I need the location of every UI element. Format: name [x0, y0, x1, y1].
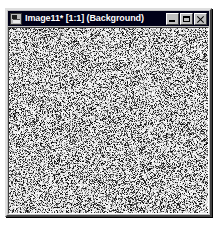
- window-title-text: Image11* [1:1] (Background): [25, 13, 166, 24]
- window-title-bar[interactable]: Image11* [1:1] (Background): [8, 11, 209, 26]
- image-canvas[interactable]: [9, 28, 208, 213]
- minimize-button[interactable]: [166, 13, 179, 25]
- maximize-button[interactable]: [180, 13, 193, 25]
- image-document-icon: [10, 13, 22, 25]
- close-button[interactable]: [194, 13, 207, 25]
- canvas-viewport[interactable]: [8, 27, 209, 214]
- image-document-window[interactable]: Image11* [1:1] (Background): [5, 8, 212, 217]
- desktop-background: Image11* [1:1] (Background): [0, 0, 218, 238]
- caption-button-group: [166, 13, 207, 25]
